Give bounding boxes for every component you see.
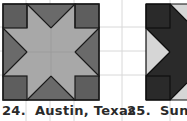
block-number: 25. bbox=[127, 103, 151, 118]
quilt-block-austin-texas bbox=[0, 0, 100, 101]
caption-austin-texas: 24.Austin, Texas bbox=[2, 103, 136, 118]
block-name: Sunlight bbox=[160, 103, 187, 118]
block-name: Austin, Texas bbox=[35, 103, 136, 118]
caption-sunlight: 25.Sunlight bbox=[127, 103, 187, 118]
block-number: 24. bbox=[2, 103, 26, 118]
quilt-block-sunlight bbox=[145, 0, 187, 101]
